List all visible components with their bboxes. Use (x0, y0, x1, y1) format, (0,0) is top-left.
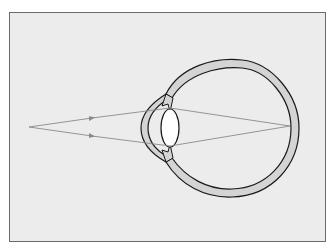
eye-diagram (0, 0, 333, 247)
lower-ray-refracted (170, 126, 290, 146)
upper-ray-refracted (170, 108, 290, 126)
upper-ray-incident (29, 118, 92, 127)
light-rays (29, 108, 290, 146)
lower-ray-incident (29, 127, 92, 136)
lens (161, 109, 179, 147)
